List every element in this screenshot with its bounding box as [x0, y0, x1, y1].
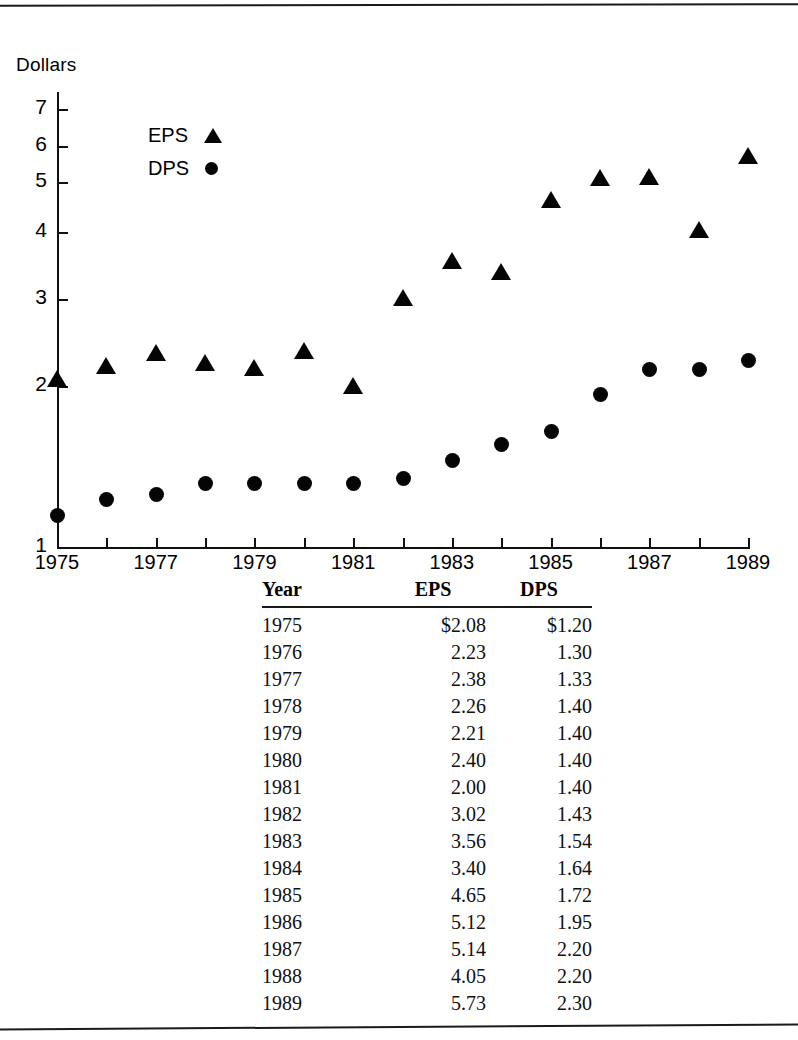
- x-axis-tick-1980: [304, 538, 306, 547]
- x-axis-tick-1988: [699, 538, 701, 547]
- table-cell-year: 1982: [262, 801, 380, 828]
- y-axis-tick-3: [59, 299, 68, 301]
- table-row: 19895.732.30: [262, 990, 592, 1017]
- legend-label-eps: EPS: [148, 124, 188, 147]
- table-header-row: Year EPS DPS: [262, 578, 592, 607]
- table-cell-eps: $2.08: [380, 607, 486, 639]
- table-cell-dps: 1.95: [486, 909, 592, 936]
- data-point-dps-1977: [149, 487, 164, 502]
- x-axis-tick-1976: [106, 538, 108, 547]
- y-axis-tick-7: [59, 109, 68, 111]
- plot-area: 123456719751977197919811983198519871989E…: [0, 14, 798, 574]
- x-axis-label-1987: 1987: [617, 551, 681, 574]
- y-axis-tick-6: [59, 146, 68, 148]
- y-axis-label-7: 7: [21, 95, 47, 119]
- y-axis-line: [57, 92, 59, 549]
- data-point-dps-1988: [692, 362, 707, 377]
- table-row: 19802.401.40: [262, 747, 592, 774]
- eps-dps-scatter-figure: Dollars 12345671975197719791981198319851…: [0, 14, 798, 574]
- page-top-rule: [0, 3, 798, 7]
- table-row: 19865.121.95: [262, 909, 592, 936]
- triangle-marker: [204, 128, 222, 143]
- x-axis-label-1979: 1979: [222, 551, 286, 574]
- table-row: 19843.401.64: [262, 855, 592, 882]
- page-bottom-rule: [0, 1024, 798, 1031]
- data-point-eps-1981: [343, 377, 363, 394]
- table-cell-dps: 1.64: [486, 855, 592, 882]
- table-cell-eps: 2.21: [380, 720, 486, 747]
- table-cell-year: 1983: [262, 828, 380, 855]
- data-point-dps-1989: [741, 353, 756, 368]
- table-row: 19833.561.54: [262, 828, 592, 855]
- x-axis-tick-1979: [254, 538, 256, 547]
- x-axis-tick-1985: [551, 538, 553, 547]
- x-axis-tick-1986: [600, 538, 602, 547]
- table-cell-year: 1978: [262, 693, 380, 720]
- data-point-eps-1989: [738, 147, 758, 164]
- table-cell-year: 1981: [262, 774, 380, 801]
- y-axis-label-6: 6: [21, 132, 47, 156]
- column-header-year: Year: [262, 578, 380, 607]
- table-cell-eps: 5.12: [380, 909, 486, 936]
- column-header-eps: EPS: [380, 578, 486, 607]
- x-axis-tick-1975: [57, 538, 59, 547]
- table-body: 1975$2.08$1.2019762.231.3019772.381.3319…: [262, 607, 592, 1017]
- y-axis-label-5: 5: [21, 168, 47, 192]
- data-point-dps-1975: [50, 508, 65, 523]
- x-axis-tick-1977: [156, 538, 158, 547]
- table-row: 19762.231.30: [262, 639, 592, 666]
- data-point-eps-1980: [294, 342, 314, 359]
- data-point-dps-1985: [544, 424, 559, 439]
- x-axis-label-1977: 1977: [124, 551, 188, 574]
- data-point-eps-1982: [393, 289, 413, 306]
- data-point-dps-1984: [494, 437, 509, 452]
- x-axis-line: [57, 547, 750, 549]
- x-axis-label-1985: 1985: [519, 551, 583, 574]
- table-row: 19875.142.20: [262, 936, 592, 963]
- x-axis-tick-1989: [748, 538, 750, 547]
- x-axis-tick-1983: [452, 538, 454, 547]
- table-cell-dps: 1.40: [486, 774, 592, 801]
- data-point-eps-1977: [146, 344, 166, 361]
- table-cell-dps: 1.54: [486, 828, 592, 855]
- table-cell-dps: 2.30: [486, 990, 592, 1017]
- table-cell-year: 1980: [262, 747, 380, 774]
- x-axis-tick-1978: [205, 538, 207, 547]
- table-cell-eps: 3.40: [380, 855, 486, 882]
- data-point-dps-1976: [99, 492, 114, 507]
- legend-label-dps: DPS: [148, 157, 189, 180]
- x-axis-tick-1984: [501, 538, 503, 547]
- data-point-eps-1988: [689, 221, 709, 238]
- table-cell-dps: 1.30: [486, 639, 592, 666]
- table-cell-year: 1975: [262, 607, 380, 639]
- x-axis-label-1983: 1983: [420, 551, 484, 574]
- data-point-dps-1978: [198, 476, 213, 491]
- table-cell-eps: 5.73: [380, 990, 486, 1017]
- table-row: 1975$2.08$1.20: [262, 607, 592, 639]
- table-row: 19884.052.20: [262, 963, 592, 990]
- table-row: 19772.381.33: [262, 666, 592, 693]
- x-axis-tick-1981: [353, 538, 355, 547]
- data-point-eps-1985: [541, 191, 561, 208]
- x-axis-label-1989: 1989: [716, 551, 780, 574]
- data-point-eps-1984: [491, 263, 511, 280]
- table-cell-eps: 4.65: [380, 882, 486, 909]
- table-cell-dps: $1.20: [486, 607, 592, 639]
- data-point-dps-1980: [297, 476, 312, 491]
- table-cell-eps: 2.23: [380, 639, 486, 666]
- table-cell-eps: 4.05: [380, 963, 486, 990]
- y-axis-label-3: 3: [21, 285, 47, 309]
- data-point-eps-1979: [244, 359, 264, 376]
- table-cell-dps: 1.40: [486, 747, 592, 774]
- column-header-dps: DPS: [486, 578, 592, 607]
- table-cell-eps: 2.40: [380, 747, 486, 774]
- data-point-dps-1979: [247, 476, 262, 491]
- table-cell-year: 1989: [262, 990, 380, 1017]
- y-axis-tick-5: [59, 182, 68, 184]
- table-cell-dps: 2.20: [486, 936, 592, 963]
- data-point-dps-1982: [396, 471, 411, 486]
- circle-marker: [205, 162, 218, 175]
- x-axis-tick-1987: [649, 538, 651, 547]
- table-cell-year: 1979: [262, 720, 380, 747]
- table-row: 19854.651.72: [262, 882, 592, 909]
